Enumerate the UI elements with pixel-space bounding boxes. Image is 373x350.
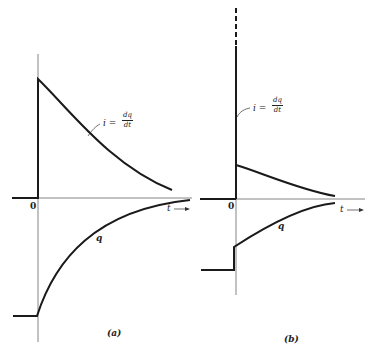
panel-b bbox=[200, 8, 365, 295]
panel-a-time-arrowhead bbox=[185, 207, 190, 211]
panel-b-current-lhs: i = bbox=[253, 103, 266, 113]
panel-b-origin-label: 0 bbox=[228, 202, 234, 211]
panel-b-charge-curve bbox=[201, 203, 335, 270]
panel-a-current-lhs: i = bbox=[103, 118, 116, 128]
panel-b-time-label: t bbox=[340, 205, 344, 214]
panel-b-current-fraction: dq dt bbox=[272, 97, 283, 114]
panel-b-caption: (b) bbox=[284, 334, 299, 344]
panel-b-charge-label: q bbox=[278, 222, 284, 231]
panel-b-fraction-numerator: dq bbox=[273, 97, 282, 104]
panel-b-current-curve bbox=[200, 165, 335, 199]
panel-b-label-leader bbox=[237, 108, 250, 117]
panel-a-charge-label: q bbox=[96, 234, 102, 243]
panel-a-charge-curve bbox=[13, 200, 190, 316]
panel-a-current-fraction: dq dt bbox=[122, 112, 133, 129]
panel-a-label-leader bbox=[88, 124, 100, 136]
panel-a-current-curve bbox=[12, 79, 172, 198]
panel-a-time-label: t bbox=[167, 204, 171, 213]
panel-a-fraction-numerator: dq bbox=[123, 112, 132, 119]
panel-a bbox=[12, 54, 192, 342]
panel-a-fraction-denominator: dt bbox=[124, 122, 131, 129]
panel-a-origin-label: 0 bbox=[30, 202, 36, 211]
diagram-canvas bbox=[0, 0, 373, 350]
panel-b-fraction-denominator: dt bbox=[274, 107, 281, 114]
panel-a-caption: (a) bbox=[107, 328, 121, 338]
panel-b-time-arrowhead bbox=[359, 208, 364, 212]
